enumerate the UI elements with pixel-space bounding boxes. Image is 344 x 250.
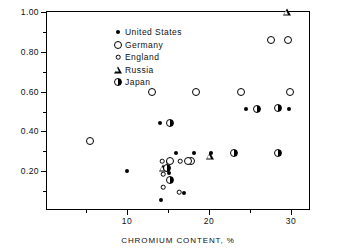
data-point	[286, 88, 294, 96]
y-tick-minor	[43, 32, 47, 33]
marker-open-circle-small	[116, 55, 121, 60]
data-point	[267, 36, 275, 44]
data-point	[86, 137, 94, 145]
y-tick-major	[41, 12, 47, 13]
x-tick-label: 10	[122, 216, 132, 226]
data-point	[177, 190, 182, 195]
data-point	[182, 191, 186, 195]
data-point	[125, 169, 129, 173]
legend-label: Russia	[125, 65, 154, 75]
data-point	[283, 9, 291, 16]
x-tick-minor	[86, 209, 87, 213]
legend-marker-open-triangle	[111, 64, 125, 77]
marker-filled-dot	[116, 30, 120, 34]
y-tick-minor	[43, 191, 47, 192]
data-point	[148, 88, 156, 96]
x-tick-minor	[250, 209, 251, 213]
data-point	[160, 159, 165, 164]
legend-item: Germany	[111, 39, 182, 52]
legend-label: Japan	[125, 77, 150, 87]
y-tick-label: 0.80	[21, 47, 39, 57]
legend-label: United States	[125, 27, 182, 37]
data-point	[230, 149, 238, 157]
data-point	[163, 164, 171, 172]
y-tick-minor	[43, 72, 47, 73]
data-point	[237, 88, 245, 96]
data-point	[158, 121, 162, 125]
data-point	[174, 151, 178, 155]
x-tick-major	[291, 209, 292, 215]
y-tick-minor	[43, 112, 47, 113]
data-point	[184, 157, 192, 165]
x-tick-major	[209, 209, 210, 215]
x-tick-major	[127, 209, 128, 215]
y-tick-minor	[43, 151, 47, 152]
x-tick-minor	[168, 209, 169, 213]
data-point	[161, 185, 166, 190]
data-point	[253, 105, 261, 113]
y-tick-label: 0.40	[21, 126, 39, 136]
data-point	[206, 153, 214, 160]
x-tick-label: 20	[204, 216, 214, 226]
data-point	[284, 36, 292, 44]
x-tick-label: 30	[286, 216, 296, 226]
legend-label: Germany	[125, 40, 163, 50]
marker-open-triangle	[114, 66, 122, 73]
y-tick-label: 1.00	[21, 7, 39, 17]
legend-item: Russia	[111, 64, 182, 77]
y-tick-major	[41, 52, 47, 53]
legend-item: England	[111, 51, 182, 64]
data-point	[192, 151, 196, 155]
scatter-chart-figure: CARBON CONTENT, % CHROMIUM CONTENT, % 0.…	[0, 0, 344, 250]
legend-item: United States	[111, 26, 182, 39]
y-tick-major	[41, 171, 47, 172]
data-point	[166, 119, 174, 127]
y-tick-major	[41, 92, 47, 93]
legend-marker-open-circle-large	[111, 39, 125, 52]
chart-legend: United StatesGermanyEnglandRussiaJapan	[111, 26, 182, 89]
legend-item: Japan	[111, 76, 182, 89]
marker-half-filled-circle	[114, 78, 122, 86]
y-tick-major	[41, 131, 47, 132]
data-point	[166, 176, 174, 184]
x-axis-title: CHROMIUM CONTENT, %	[121, 236, 235, 245]
y-tick-label: 0.20	[21, 166, 39, 176]
legend-marker-half-filled-circle	[111, 76, 125, 89]
data-point	[274, 149, 282, 157]
legend-label: England	[125, 52, 159, 62]
data-point	[159, 198, 163, 202]
plot-area: 0.200.400.600.801.00 102030 United State…	[46, 11, 310, 210]
legend-marker-open-circle-small	[111, 51, 125, 64]
data-point	[274, 104, 282, 112]
data-point	[161, 172, 166, 177]
data-point	[244, 107, 248, 111]
marker-open-circle-large	[114, 41, 122, 49]
data-point	[192, 88, 200, 96]
y-tick-label: 0.60	[21, 87, 39, 97]
legend-marker-filled-dot	[111, 26, 125, 39]
data-point	[287, 107, 291, 111]
data-point	[178, 159, 183, 164]
